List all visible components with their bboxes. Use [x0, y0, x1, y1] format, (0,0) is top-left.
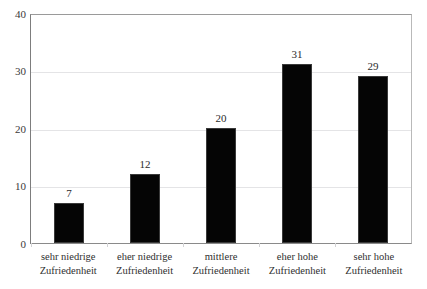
x-axis-tick	[31, 243, 32, 247]
y-axis-tick-label-0: 0	[2, 239, 26, 250]
table-row	[206, 128, 236, 243]
bar-value-label: 20	[183, 113, 259, 124]
x-axis-label-sehr-hohe: sehr hohe Zufriedenheit	[336, 250, 412, 278]
x-axis-label-line1: sehr niedrige	[30, 250, 106, 264]
x-axis-label-eher-niedrige: eher niedrige Zufriedenheit	[106, 250, 182, 278]
bar-cell: 7	[31, 15, 107, 243]
x-axis-label-line2: Zufriedenheit	[30, 264, 106, 278]
x-axis-label-line1: eher hohe	[259, 250, 335, 264]
table-row	[282, 64, 312, 243]
table-row	[54, 203, 84, 243]
x-axis-tick	[107, 243, 108, 247]
y-axis-tick-label-20: 20	[2, 124, 26, 135]
bar-chart: Zufriedenheit 40 30 20 10 0 7 12 20	[0, 0, 427, 289]
bar-cell: 12	[107, 15, 183, 243]
bar-cell: 31	[259, 15, 335, 243]
bar-value-label: 31	[259, 49, 335, 60]
chart-title-clipped: Zufriedenheit	[0, 0, 427, 2]
bar-cell: 20	[183, 15, 259, 243]
x-axis-label-line1: sehr hohe	[336, 250, 412, 264]
plot-area: 7 12 20 31 29	[30, 14, 412, 244]
x-axis-label-sehr-niedrige: sehr niedrige Zufriedenheit	[30, 250, 106, 278]
x-axis-label-line2: Zufriedenheit	[183, 264, 259, 278]
table-row	[358, 76, 388, 243]
y-axis-tick-label-30: 30	[2, 66, 26, 77]
x-axis-labels: sehr niedrige Zufriedenheit eher niedrig…	[30, 250, 412, 278]
x-axis-label-mittlere: mittlere Zufriedenheit	[183, 250, 259, 278]
x-axis-tick	[335, 243, 336, 247]
x-axis-label-line1: mittlere	[183, 250, 259, 264]
x-axis-label-line2: Zufriedenheit	[336, 264, 412, 278]
x-axis-label-eher-hohe: eher hohe Zufriedenheit	[259, 250, 335, 278]
y-axis-tick-label-40: 40	[2, 9, 26, 20]
x-axis-label-line2: Zufriedenheit	[259, 264, 335, 278]
bar-value-label: 29	[335, 61, 411, 72]
bar-value-label: 7	[31, 188, 107, 199]
bar-cell: 29	[335, 15, 411, 243]
x-axis-label-line2: Zufriedenheit	[106, 264, 182, 278]
table-row	[130, 174, 160, 243]
x-axis-label-line1: eher niedrige	[106, 250, 182, 264]
x-axis-tick	[259, 243, 260, 247]
bar-value-label: 12	[107, 159, 183, 170]
y-axis-tick-label-10: 10	[2, 181, 26, 192]
bar-series: 7 12 20 31 29	[31, 15, 411, 243]
x-axis-tick	[183, 243, 184, 247]
